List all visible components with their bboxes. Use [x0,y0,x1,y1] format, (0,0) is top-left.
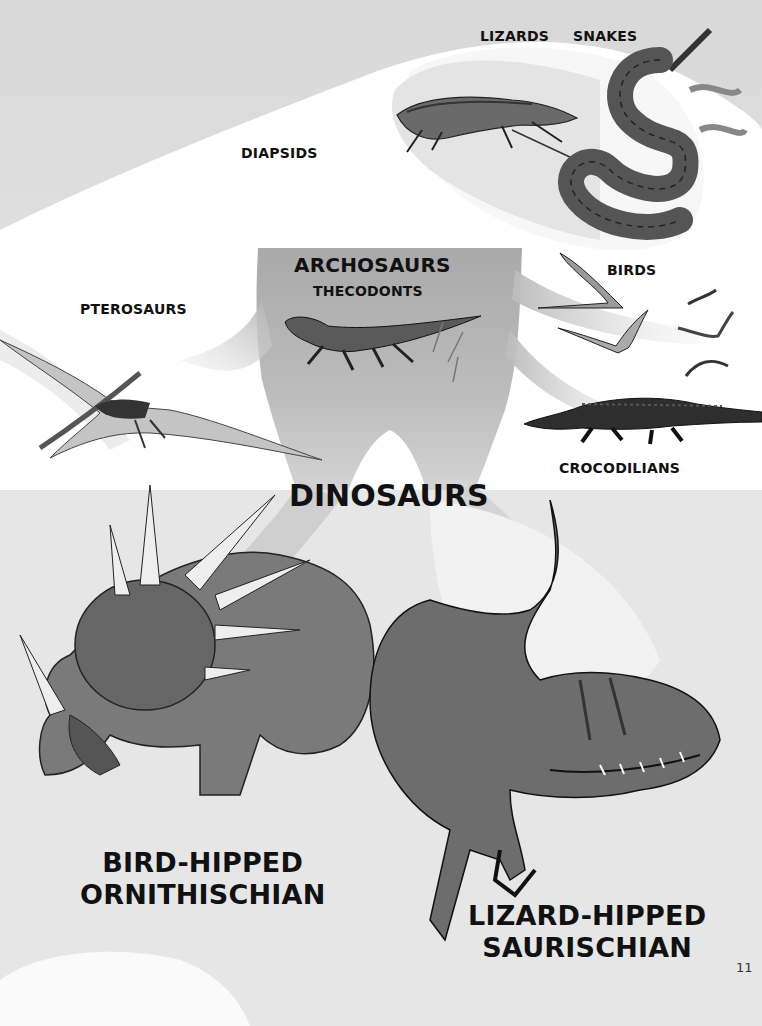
label-lizard-hipped-saurischian: LIZARD-HIPPED SAURISCHIAN [468,900,706,964]
crocodile-illustration [522,386,762,446]
label-bird-hipped-line1: BIRD-HIPPED [80,847,325,879]
label-dinosaurs: DINOSAURS [289,478,489,513]
label-archosaurs: ARCHOSAURS [294,253,451,277]
label-lizard-hipped-line2: SAURISCHIAN [468,932,706,964]
label-snakes: SNAKES [573,28,637,44]
snake-illustration [540,20,750,245]
label-crocodilians: CROCODILIANS [559,460,680,476]
label-diapsids: DIAPSIDS [241,145,318,161]
label-lizards: LIZARDS [480,28,549,44]
book-page: LIZARDS SNAKES DIAPSIDS ARCHOSAURS THECO… [0,0,762,1026]
pterosaur-illustration [0,338,330,468]
label-birds: BIRDS [607,262,656,278]
label-bird-hipped-ornithischian: BIRD-HIPPED ORNITHISCHIAN [80,847,325,911]
page-number: 11 [736,960,753,975]
styracosaurus-illustration [10,475,390,815]
label-pterosaurs: PTEROSAURS [80,301,187,317]
label-thecodonts: THECODONTS [313,283,423,299]
theropod-illustration [350,500,730,945]
label-bird-hipped-line2: ORNITHISCHIAN [80,879,325,911]
label-lizard-hipped-line1: LIZARD-HIPPED [468,900,706,932]
